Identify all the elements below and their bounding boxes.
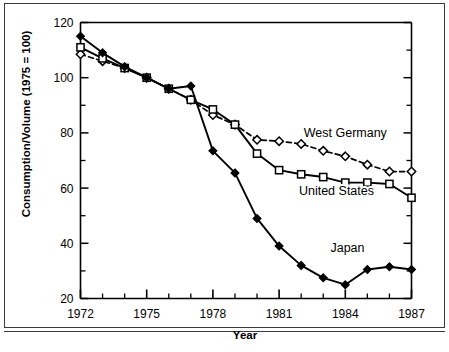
data-marker — [363, 160, 371, 168]
data-marker — [275, 137, 283, 145]
y-tick-label: 100 — [53, 71, 73, 85]
series-label-japan: Japan — [330, 241, 364, 255]
series-label-united-states: United States — [299, 184, 374, 198]
y-tick-label: 20 — [60, 292, 74, 306]
y-axis-title: Consumption/Volume (1975 = 100) — [20, 14, 32, 234]
x-tick-label: 1981 — [266, 307, 293, 321]
y-tick-label: 120 — [53, 16, 73, 30]
data-marker — [253, 150, 260, 157]
y-tick-label: 80 — [60, 126, 74, 140]
x-tick-label: 1972 — [67, 307, 94, 321]
y-tick-label: 40 — [60, 237, 74, 251]
data-marker — [386, 180, 393, 187]
data-marker — [341, 152, 349, 160]
x-tick-label: 1987 — [398, 307, 425, 321]
chart-figure: 20406080100120197219751978198119841987We… — [0, 0, 449, 352]
data-marker — [77, 44, 84, 51]
data-marker — [386, 263, 394, 271]
data-marker — [408, 266, 416, 274]
data-marker — [407, 167, 415, 175]
x-tick-label: 1978 — [200, 307, 227, 321]
x-axis-title: Year — [80, 329, 410, 341]
data-marker — [187, 82, 195, 90]
data-marker — [319, 147, 327, 155]
series-label-west-germany: West Germany — [304, 126, 388, 140]
data-marker — [209, 106, 216, 113]
x-tick-label: 1975 — [133, 307, 160, 321]
x-tick-label: 1984 — [332, 307, 359, 321]
data-marker — [385, 167, 393, 175]
data-marker — [319, 274, 327, 282]
y-tick-label: 60 — [60, 182, 74, 196]
data-marker — [297, 140, 305, 148]
data-marker — [187, 96, 194, 103]
series-line — [81, 54, 412, 171]
data-marker — [276, 167, 283, 174]
data-marker — [320, 173, 327, 180]
line-chart-plot: 20406080100120197219751978198119841987We… — [0, 0, 449, 352]
data-marker — [298, 171, 305, 178]
data-marker — [408, 194, 415, 201]
data-marker — [231, 121, 238, 128]
